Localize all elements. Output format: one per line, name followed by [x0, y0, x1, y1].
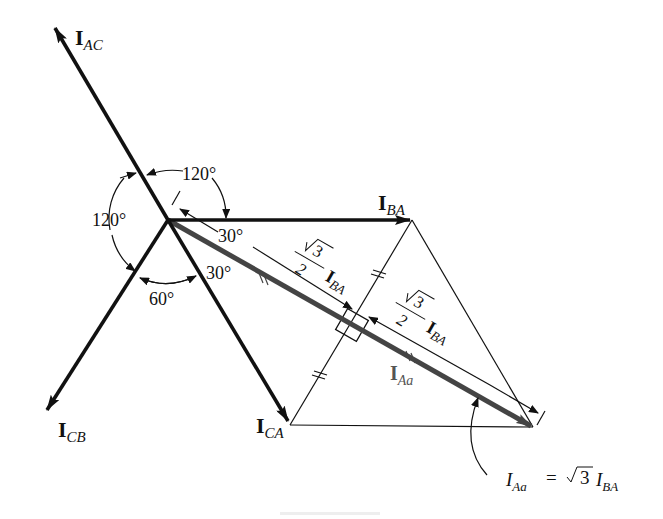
phasor-I-CA [168, 220, 288, 421]
angle-label-top-120: 120° [182, 164, 216, 184]
equation-equals: = [546, 467, 557, 488]
label-I-AC: IAC [75, 25, 104, 53]
label-I-BA: IBA [378, 190, 406, 218]
label-I-CB: ICB [58, 417, 86, 445]
angle-labels: 120° 120° 60° 30° 30° [92, 164, 243, 309]
label-I-Aa: IAa [390, 362, 413, 388]
angle-label-left-120: 120° [92, 210, 126, 230]
equation-lhs: IAa [505, 469, 527, 494]
angle-label-30-upper: 30° [218, 226, 243, 246]
svg-text:2: 2 [393, 310, 410, 331]
parallelogram-side-bottom [290, 425, 533, 427]
phasor-I-Aa [168, 220, 531, 426]
svg-text:IBA: IBA [422, 317, 453, 348]
label-I-CA: ICA [256, 413, 285, 441]
phasor-I-CB [47, 220, 168, 410]
half-length-label-lower: 3 2 IBA [385, 283, 462, 353]
angle-label-30-lower: 30° [206, 263, 231, 283]
construction-lines [290, 220, 533, 427]
equation-rhs: IBA [595, 469, 618, 494]
phasor-diagram: IAC IBA ICB ICA IAa 120° 120° 60° 30° 30… [0, 0, 663, 519]
equation-radical: 3 [580, 467, 590, 488]
angle-label-60: 60° [149, 289, 174, 309]
caption-remnant [280, 512, 380, 515]
equation-line-current: IAa = 3 IBA [505, 467, 618, 494]
svg-text:2: 2 [292, 259, 309, 280]
phasor-I-AC [55, 28, 168, 220]
